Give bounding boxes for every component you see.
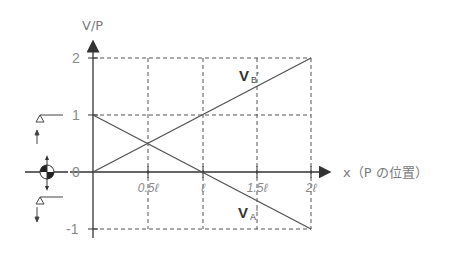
series-label-va: V A ' [238,204,258,222]
pin-support-bottom-icon [35,197,63,222]
pin-support-top-icon [35,115,63,144]
x-tick-label-2: 2ℓ [305,181,318,195]
x-tick-label-0.5: 0.5ℓ [138,181,160,195]
y-tick-label-1: 1 [72,107,80,123]
svg-text:': ' [257,70,259,80]
influence-line-diagram: V/P 2 1 0 -1 0.5ℓ ℓ 1.5ℓ 2ℓ x（P の位置） V B… [0,0,453,256]
y-axis-title: V/P [82,18,103,33]
y-tick-label-0: 0 [72,164,80,180]
grid [93,58,311,229]
series-label-vb: V B ' [239,67,259,85]
svg-text:V: V [239,67,249,84]
x-tick-label-1.5: 1.5ℓ [247,181,269,195]
x-axis-title: x（P の位置） [343,165,428,180]
series-lines [93,58,311,229]
x-tick-label-1: ℓ [201,181,206,195]
tick-marks [88,58,311,229]
svg-text:V: V [238,204,248,221]
axes [70,46,325,238]
center-of-mass-icon [25,155,68,191]
y-tick-label-2: 2 [72,50,80,66]
y-tick-label-minus1: -1 [66,221,79,237]
svg-text:': ' [256,207,258,217]
